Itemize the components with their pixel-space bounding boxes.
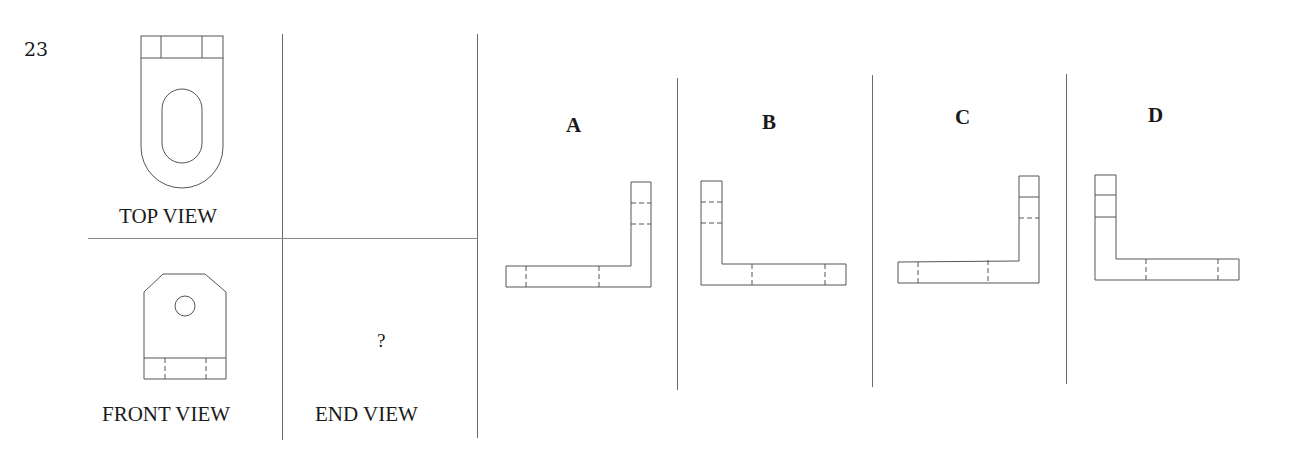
front-view-drawing <box>143 273 233 385</box>
option-divider-bc <box>872 75 873 387</box>
top-view-label: TOP VIEW <box>119 204 217 229</box>
views-vertical-divider-2 <box>477 34 478 438</box>
option-a-drawing[interactable] <box>505 181 655 291</box>
option-divider-ab <box>677 78 678 390</box>
top-view-drawing <box>140 35 230 195</box>
option-b-label[interactable]: B <box>762 110 776 135</box>
end-view-placeholder: ? <box>377 330 385 352</box>
option-a-label[interactable]: A <box>566 113 581 138</box>
front-view-label: FRONT VIEW <box>102 402 230 427</box>
question-number: 23 <box>24 38 48 60</box>
views-horizontal-divider <box>88 238 478 239</box>
option-d-label[interactable]: D <box>1148 103 1163 128</box>
views-vertical-divider-1 <box>282 34 283 440</box>
option-b-drawing[interactable] <box>700 180 850 290</box>
option-d-drawing[interactable] <box>1094 174 1244 284</box>
option-divider-cd <box>1066 74 1067 384</box>
option-c-drawing[interactable] <box>897 175 1047 285</box>
option-c-label[interactable]: C <box>955 105 970 130</box>
end-view-label: END VIEW <box>315 402 418 427</box>
